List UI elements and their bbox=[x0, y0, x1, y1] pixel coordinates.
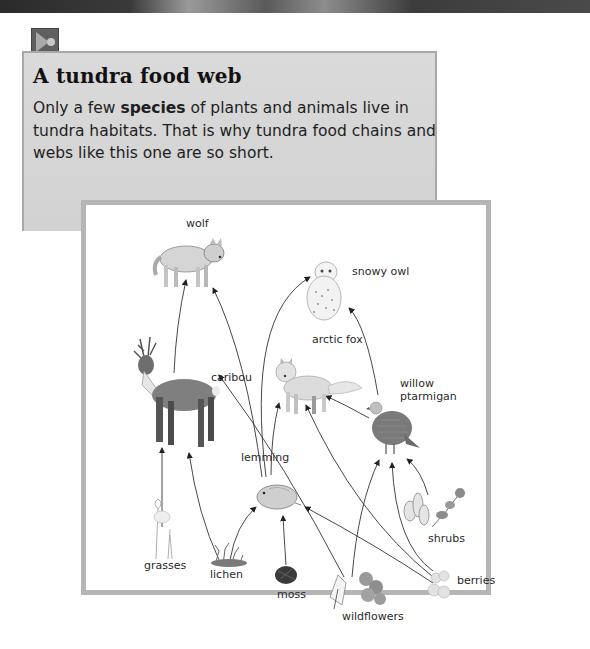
label-moss: moss bbox=[277, 588, 306, 601]
snowy-owl-illustration bbox=[298, 258, 350, 326]
label-berries: berries bbox=[457, 574, 495, 587]
lemming-illustration bbox=[255, 481, 301, 517]
wildflowers-illustration bbox=[324, 569, 394, 613]
label-snowy-owl: snowy owl bbox=[352, 265, 409, 278]
label-lichen: lichen bbox=[210, 568, 243, 581]
label-caribou: caribou bbox=[211, 371, 252, 384]
willow-ptarmigan-illustration bbox=[366, 398, 422, 462]
keyword-species[interactable]: species bbox=[120, 99, 185, 117]
label-lemming: lemming bbox=[241, 451, 289, 464]
arctic-fox-illustration bbox=[272, 358, 364, 422]
label-arctic-fox: arctic fox bbox=[312, 333, 363, 346]
caribou-illustration bbox=[128, 337, 228, 456]
intro-text-start: Only a few bbox=[33, 99, 120, 117]
label-wolf: wolf bbox=[186, 217, 209, 230]
section-title: A tundra food web bbox=[33, 64, 242, 88]
label-ptarmigan-line: ptarmigan bbox=[400, 390, 457, 403]
label-shrubs: shrubs bbox=[428, 532, 465, 545]
wolf-illustration bbox=[150, 235, 230, 294]
grasses-illustration bbox=[148, 499, 178, 563]
intro-paragraph: Only a few species of plants and animals… bbox=[33, 97, 453, 165]
top-banner-image bbox=[0, 0, 590, 13]
label-willow-ptarmigan: willowptarmigan bbox=[400, 377, 457, 403]
lichen-illustration bbox=[209, 541, 249, 571]
label-willow-line: willow bbox=[400, 377, 434, 390]
moss-illustration bbox=[274, 565, 298, 589]
label-grasses: grasses bbox=[144, 559, 186, 572]
label-wildflowers: wildflowers bbox=[342, 610, 404, 623]
berries-illustration bbox=[426, 570, 454, 604]
food-web-diagram: wolf snowy owl caribou bbox=[81, 200, 491, 595]
